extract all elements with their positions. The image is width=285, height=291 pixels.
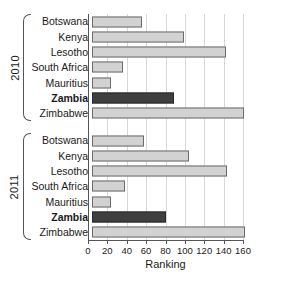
bar-track (92, 148, 285, 163)
x-axis-title: Ranking (88, 258, 243, 270)
category-label-south-africa: South Africa (30, 181, 92, 192)
bar-rows-2010: BotswanaKenyaLesothoSouth AfricaMauritiu… (30, 14, 285, 121)
category-label-mauritius: Mauritius (30, 78, 92, 89)
bar-row: Zimbabwe (30, 106, 285, 121)
bar-row: Kenya (30, 29, 285, 44)
x-axis: 020406080100120140160 (88, 240, 243, 241)
bar-row: South Africa (30, 60, 285, 75)
year-group-2010: 2010 BotswanaKenyaLesothoSouth AfricaMau… (0, 14, 285, 121)
bar-track (92, 133, 285, 148)
bar-2011-mauritius (92, 196, 111, 207)
x-tick-label-40: 40 (121, 245, 132, 256)
bar-track (92, 164, 285, 179)
bar-row: Kenya (30, 148, 285, 163)
x-tick-label-60: 60 (141, 245, 152, 256)
category-label-mauritius: Mauritius (30, 197, 92, 208)
bar-2010-botswana (92, 16, 142, 27)
x-tick-label-100: 100 (177, 245, 193, 256)
x-tick-label-140: 140 (216, 245, 232, 256)
x-tick-label-160: 160 (235, 245, 251, 256)
bar-2011-zambia (92, 212, 166, 223)
bar-row: South Africa (30, 179, 285, 194)
bar-2010-lesotho (92, 47, 226, 58)
category-label-lesotho: Lesotho (30, 47, 92, 58)
bar-2010-kenya (92, 31, 184, 42)
bar-track (92, 179, 285, 194)
x-tick-0 (88, 240, 89, 244)
bar-2010-zambia (92, 93, 174, 104)
bar-track (92, 90, 285, 105)
bar-2011-zimbabwe (92, 227, 245, 238)
x-tick-label-80: 80 (160, 245, 171, 256)
bar-row: Lesotho (30, 45, 285, 60)
year-group-2011: 2011 BotswanaKenyaLesothoSouth AfricaMau… (0, 133, 285, 240)
category-label-zambia: Zambia (30, 212, 92, 223)
x-tick-40 (127, 240, 128, 244)
category-label-zimbabwe: Zimbabwe (30, 108, 92, 119)
bar-2010-south-africa (92, 62, 123, 73)
bar-track (92, 29, 285, 44)
bar-row: Zimbabwe (30, 225, 285, 240)
bar-row: Mauritius (30, 194, 285, 209)
bar-track (92, 194, 285, 209)
bar-track (92, 225, 285, 240)
category-label-zambia: Zambia (30, 93, 92, 104)
horizontal-bar-chart: 2010 BotswanaKenyaLesothoSouth AfricaMau… (0, 0, 285, 291)
bar-track (92, 45, 285, 60)
category-label-botswana: Botswana (30, 135, 92, 146)
category-label-lesotho: Lesotho (30, 166, 92, 177)
bar-track (92, 14, 285, 29)
bar-2010-mauritius (92, 77, 111, 88)
x-tick-80 (166, 240, 167, 244)
year-label-2011: 2011 (8, 174, 20, 199)
bar-track (92, 209, 285, 224)
category-label-zimbabwe: Zimbabwe (30, 227, 92, 238)
category-label-botswana: Botswana (30, 16, 92, 27)
x-tick-120 (204, 240, 205, 244)
x-tick-140 (224, 240, 225, 244)
bar-row: Lesotho (30, 164, 285, 179)
bar-rows-2011: BotswanaKenyaLesothoSouth AfricaMauritiu… (30, 133, 285, 240)
bar-2011-botswana (92, 135, 144, 146)
x-tick-label-120: 120 (196, 245, 212, 256)
bar-track (92, 106, 285, 121)
bar-track (92, 75, 285, 90)
category-label-south-africa: South Africa (30, 62, 92, 73)
bar-row: Botswana (30, 133, 285, 148)
x-tick-60 (146, 240, 147, 244)
bar-row: Zambia (30, 90, 285, 105)
category-label-kenya: Kenya (30, 151, 92, 162)
bar-2010-zimbabwe (92, 108, 244, 119)
bar-row: Mauritius (30, 75, 285, 90)
x-tick-label-0: 0 (85, 245, 90, 256)
x-tick-20 (107, 240, 108, 244)
bar-row: Botswana (30, 14, 285, 29)
bar-2011-kenya (92, 150, 189, 161)
bar-track (92, 60, 285, 75)
category-label-kenya: Kenya (30, 32, 92, 43)
bar-2011-lesotho (92, 166, 227, 177)
x-tick-100 (185, 240, 186, 244)
bar-2011-south-africa (92, 181, 125, 192)
year-label-2010: 2010 (9, 55, 21, 81)
x-tick-label-20: 20 (102, 245, 113, 256)
x-tick-160 (243, 240, 244, 244)
bar-row: Zambia (30, 209, 285, 224)
